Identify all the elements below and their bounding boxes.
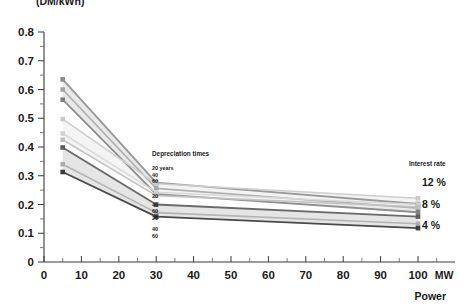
x-tick-label: 30 [150, 269, 163, 281]
y-tick-label: 0.7 [18, 55, 34, 67]
x-tick-label: 100 [408, 269, 427, 281]
y-tick-label: 0.1 [18, 227, 35, 239]
y-axis-title: (DM/kWh) [36, 0, 84, 7]
y-tick-label: 0.2 [18, 199, 34, 211]
depreciation-label: 40 [152, 226, 158, 232]
chart-container: (DM/kWh) 0.8 0.7 0.6 [0, 0, 467, 306]
x-tick-label: 40 [187, 269, 200, 281]
x-axis-tick-labels: 0 10 20 30 40 50 60 70 80 90 100 MW [41, 269, 454, 281]
legend-item-12-percent: 12 % [422, 176, 447, 188]
x-axis-title: Power [414, 290, 446, 302]
depreciation-label: 20 years [152, 165, 174, 171]
x-tick-label: 60 [262, 269, 275, 281]
cost-vs-power-line-chart: (DM/kWh) 0.8 0.7 0.6 [0, 0, 467, 306]
y-tick-label: 0.8 [18, 26, 35, 38]
depreciation-label: 20 [152, 193, 158, 199]
depreciation-label: 60 [152, 233, 158, 239]
x-tick-label: 10 [75, 269, 88, 281]
x-tick-label: 80 [337, 269, 350, 281]
x-axis-unit: MW [435, 269, 454, 281]
legend-item-8-percent: 8 % [422, 198, 441, 210]
depreciation-label: 40 [152, 172, 158, 178]
interest-rate-legend-heading: Interest rate [409, 160, 446, 167]
x-tick-label: 50 [225, 269, 238, 281]
depreciation-annotation-heading: Depreciation times [152, 150, 210, 158]
x-tick-label: 90 [374, 269, 387, 281]
depreciation-label: 60 [152, 208, 158, 214]
y-tick-label: 0.5 [18, 112, 35, 124]
x-tick-label: 0 [41, 269, 47, 281]
y-tick-label: 0.3 [18, 170, 34, 182]
x-axis-ticks [44, 256, 437, 262]
y-tick-label: 0 [28, 256, 34, 268]
depreciation-label: 20 [152, 215, 158, 221]
y-axis-tick-labels: 0.8 0.7 0.6 0.5 0.4 0.3 0.2 0.1 0 [18, 26, 35, 268]
x-tick-label: 20 [112, 269, 125, 281]
x-tick-label: 70 [299, 269, 312, 281]
depreciation-label: 60 [152, 178, 158, 184]
legend-item-4-percent: 4 % [422, 219, 441, 231]
y-axis-ticks [38, 32, 44, 262]
y-tick-label: 0.6 [18, 84, 34, 96]
y-tick-label: 0.4 [18, 141, 35, 153]
